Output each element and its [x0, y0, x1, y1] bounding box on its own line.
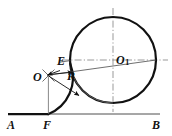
label-center-o1-base: O — [116, 53, 125, 67]
label-point-b: B — [152, 119, 160, 131]
label-point-e: E — [57, 55, 65, 67]
geometry-drawing-canvas — [0, 0, 172, 136]
label-center-o1: O1 — [116, 54, 129, 67]
label-point-a: A — [7, 119, 15, 131]
centerline-group — [62, 8, 168, 112]
label-point-f: F — [43, 119, 51, 131]
label-radius-r: R — [67, 70, 75, 82]
label-point-o: O — [33, 71, 42, 83]
geometry-figure: A F B E O R O1 — [0, 0, 172, 136]
label-center-o1-subscript: 1 — [125, 58, 130, 67]
